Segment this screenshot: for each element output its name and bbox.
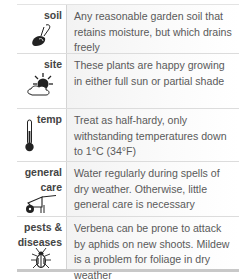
row-label-line2: care xyxy=(17,180,62,195)
description-general-care: Water regularly during spells of dry wea… xyxy=(66,162,239,216)
label-cell-temp: temp xyxy=(17,109,66,161)
description-pests-diseases: Verbena can be prone to attack by aphids… xyxy=(66,217,239,269)
description-temp: Treat as half-hardy, only withstanding t… xyxy=(66,109,239,161)
row-soil: soil Any reasonable garden soil that ret… xyxy=(17,5,239,54)
row-label-line1: pests & xyxy=(17,220,62,235)
label-cell-site: site xyxy=(17,54,66,108)
description-site: These plants are happy growing in either… xyxy=(66,54,239,108)
row-pests-diseases: pests & diseases Verbena can be pro xyxy=(17,217,239,272)
row-label: site xyxy=(17,57,62,72)
thermometer-icon xyxy=(24,119,36,153)
row-label-line1: general xyxy=(17,165,62,180)
label-cell-general-care: general care xyxy=(17,162,66,216)
row-general-care: general care Water regularly during spel… xyxy=(17,162,239,217)
sun-cloud-icon xyxy=(26,72,56,98)
description-soil: Any reasonable garden soil that retains … xyxy=(66,5,239,53)
plant-care-table: soil Any reasonable garden soil that ret… xyxy=(17,4,239,272)
wheelbarrow-icon xyxy=(24,195,58,215)
beetle-icon xyxy=(30,248,52,270)
row-temp: temp Treat as half-hardy, only withstand… xyxy=(17,109,239,162)
trowel-icon xyxy=(30,23,52,49)
row-label: soil xyxy=(17,8,62,23)
row-site: site These plants are happy growing in e… xyxy=(17,54,239,109)
label-cell-soil: soil xyxy=(17,5,66,53)
label-cell-pests-diseases: pests & diseases xyxy=(17,217,66,269)
